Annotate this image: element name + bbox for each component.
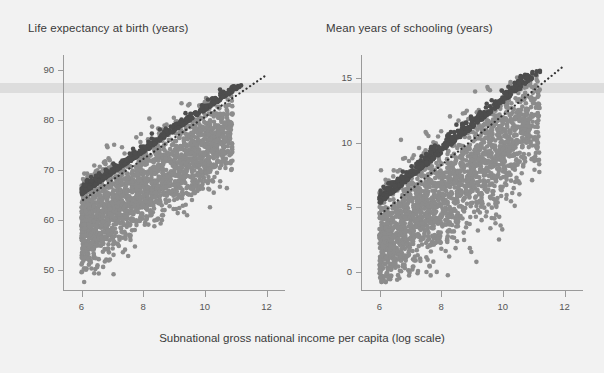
panel-mean-years-schooling: Mean years of schooling (years) 05101568… [302,0,604,373]
x-tick-label: 8 [439,301,444,312]
y-axis-spine [63,55,64,290]
x-axis-spine [361,290,583,291]
x-tick-label: 6 [79,301,84,312]
y-tick-mark [356,272,361,273]
y-tick-mark [58,170,63,171]
scatter-series-light [79,92,235,284]
x-tick-label: 10 [498,301,509,312]
x-tick-label: 12 [261,301,272,312]
panel-title-life-expectancy: Life expectancy at birth (years) [28,22,188,34]
y-tick-mark [58,220,63,221]
y-tick-mark [356,207,361,208]
xaxis-title: Subnational gross national income per ca… [159,332,445,344]
y-tick-label: 15 [326,72,352,83]
figure-root: Life expectancy at birth (years) 5060708… [0,0,604,373]
x-tick-label: 6 [377,301,382,312]
y-tick-label: 50 [28,264,54,275]
x-tick-label: 12 [559,301,570,312]
plot-area-mean-years-schooling [361,55,583,290]
y-tick-mark [58,270,63,271]
y-tick-mark [58,120,63,121]
y-tick-mark [58,70,63,71]
panel-title-mean-years-schooling: Mean years of schooling (years) [326,22,493,34]
x-tick-label: 10 [200,301,211,312]
y-tick-label: 10 [326,137,352,148]
x-tick-label: 8 [141,301,146,312]
scatter-canvas-life-expectancy [63,55,285,290]
y-tick-label: 80 [28,114,54,125]
y-tick-mark [356,143,361,144]
x-tick-mark [565,291,566,297]
x-tick-mark [380,291,381,297]
panel-life-expectancy: Life expectancy at birth (years) 5060708… [0,0,302,373]
x-tick-mark [82,291,83,297]
plot-area-life-expectancy [63,55,285,290]
y-axis-spine [361,55,362,290]
y-tick-label: 70 [28,164,54,175]
scatter-canvas-mean-years-schooling [361,55,583,290]
x-tick-mark [441,291,442,297]
y-tick-label: 90 [28,64,54,75]
y-tick-label: 5 [326,201,352,212]
x-tick-mark [503,291,504,297]
y-tick-mark [356,78,361,79]
x-tick-mark [205,291,206,297]
y-tick-label: 60 [28,214,54,225]
x-axis-spine [63,290,285,291]
x-tick-mark [143,291,144,297]
x-tick-mark [267,291,268,297]
y-tick-label: 0 [326,266,352,277]
